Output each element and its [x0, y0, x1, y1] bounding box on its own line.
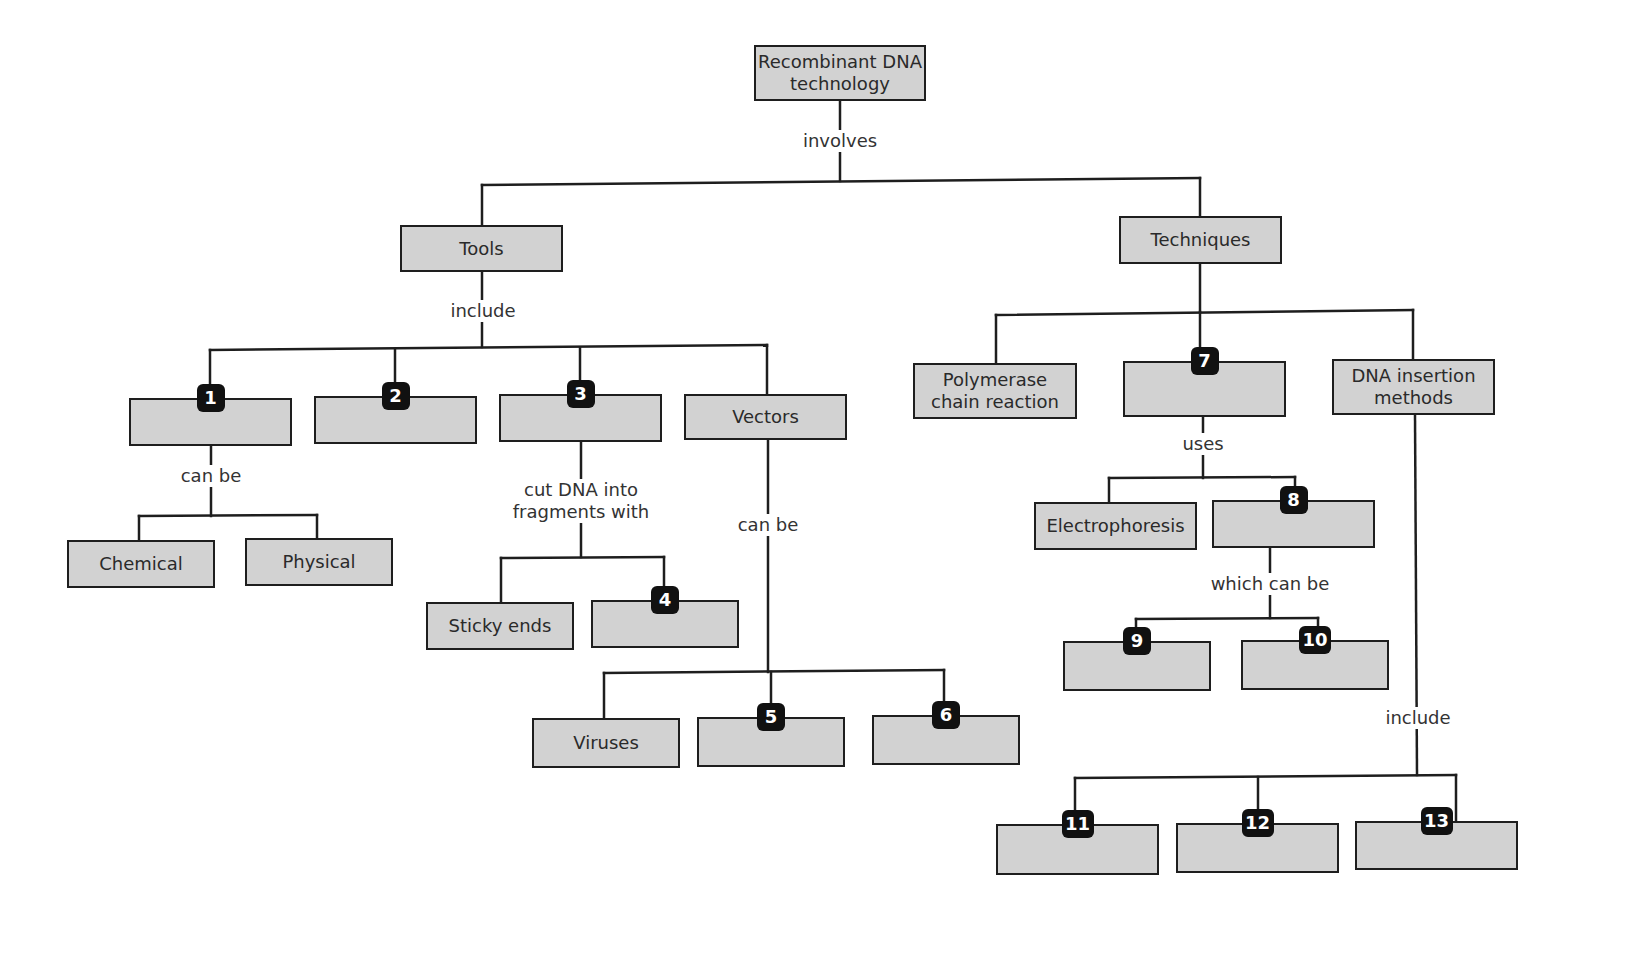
node-text: Techniques — [1150, 229, 1250, 251]
number-badge: 11 — [1062, 810, 1094, 838]
link-label-can-be-vectors: can be — [736, 514, 801, 536]
connector-line — [1075, 775, 1456, 778]
node-chemical: Chemical — [67, 540, 215, 588]
number-badge: 1 — [197, 384, 225, 412]
connector-line — [210, 345, 767, 350]
connector-line — [1136, 618, 1318, 619]
link-label-cut-dna: cut DNA into fragments with — [511, 479, 652, 523]
node-text: Sticky ends — [449, 615, 552, 637]
node-text: Chemical — [99, 553, 183, 575]
link-label-can-be-1: can be — [179, 465, 244, 487]
link-label-uses: uses — [1180, 433, 1225, 455]
node-text: Vectors — [732, 406, 799, 428]
number-badge: 10 — [1299, 626, 1331, 654]
connector-line — [996, 310, 1413, 315]
node-text: Physical — [282, 551, 355, 573]
connector-line — [501, 557, 664, 558]
link-label-which-can-be: which can be — [1209, 573, 1332, 595]
link-label-involves: involves — [801, 130, 879, 152]
connector-line — [1109, 477, 1295, 478]
link-label-include-insertion: include — [1383, 707, 1452, 729]
node-text: Electrophoresis — [1046, 515, 1184, 537]
node-text: DNA insertion methods — [1351, 365, 1475, 409]
node-sticky: Sticky ends — [426, 602, 574, 650]
number-badge: 2 — [382, 382, 410, 410]
number-badge: 6 — [932, 701, 960, 729]
number-badge: 12 — [1242, 809, 1274, 837]
node-root: Recombinant DNA technology — [754, 45, 926, 101]
node-text: Viruses — [573, 732, 639, 754]
connector-line — [139, 515, 317, 516]
node-text: Polymerase chain reaction — [931, 369, 1059, 413]
number-badge: 3 — [567, 380, 595, 408]
node-physical: Physical — [245, 538, 393, 586]
node-vectors: Vectors — [684, 394, 847, 440]
link-label-include-tools: include — [448, 300, 517, 322]
node-insertion: DNA insertion methods — [1332, 359, 1495, 415]
number-badge: 9 — [1123, 627, 1151, 655]
connector-line — [604, 670, 944, 673]
node-electro: Electrophoresis — [1034, 502, 1197, 550]
number-badge: 13 — [1421, 807, 1453, 835]
number-badge: 8 — [1280, 486, 1308, 514]
number-badge: 4 — [651, 586, 679, 614]
number-badge: 7 — [1191, 347, 1219, 375]
node-tools: Tools — [400, 225, 563, 272]
concept-map: Recombinant DNA technologyToolsTechnique… — [0, 0, 1638, 963]
node-techniques: Techniques — [1119, 216, 1282, 264]
node-pcr: Polymerase chain reaction — [913, 363, 1077, 419]
node-text: Tools — [459, 238, 503, 260]
node-viruses: Viruses — [532, 718, 680, 768]
node-text: Recombinant DNA technology — [758, 51, 922, 95]
number-badge: 5 — [757, 703, 785, 731]
